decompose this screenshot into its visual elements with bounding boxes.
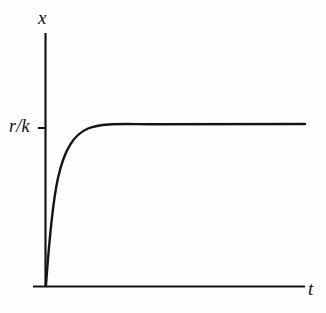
plot-canvas [0, 0, 326, 313]
growth-curve [46, 124, 305, 285]
asymptote-tick-label: r/k [9, 117, 30, 135]
x-axis-label: t [308, 279, 313, 298]
y-axis-label: x [38, 8, 46, 27]
saturating-growth-figure: x t r/k [0, 0, 326, 313]
